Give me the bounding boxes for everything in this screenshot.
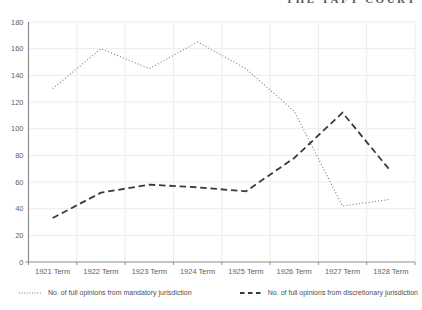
x-tick-label: 1925 Term: [228, 267, 263, 276]
chart-canvas: 0204060801001201401601801921 Term1922 Te…: [0, 0, 422, 284]
y-tick-label: 60: [15, 178, 23, 187]
x-tick-label: 1921 Term: [35, 267, 70, 276]
y-tick-label: 140: [11, 71, 24, 80]
x-tick-label: 1927 Term: [325, 267, 360, 276]
y-tick-label: 20: [15, 231, 23, 240]
legend-item-discretionary: No. of full opinions from discretionary …: [240, 289, 418, 296]
y-tick-label: 120: [11, 98, 24, 107]
dashed-line-sample: [240, 291, 262, 295]
dotted-line-sample: [19, 291, 42, 295]
x-tick-label: 1928 Term: [373, 267, 408, 276]
y-tick-label: 100: [11, 124, 24, 133]
y-tick-label: 0: [19, 258, 23, 267]
y-tick-label: 40: [15, 204, 23, 213]
x-tick-label: 1923 Term: [132, 267, 167, 276]
y-tick-label: 180: [11, 18, 24, 27]
x-tick-label: 1926 Term: [277, 267, 312, 276]
legend-label-mandatory: No. of full opinions from mandatory juri…: [48, 289, 192, 296]
chart-legend: No. of full opinions from mandatory juri…: [19, 289, 418, 296]
legend-item-mandatory: No. of full opinions from mandatory juri…: [19, 289, 192, 296]
legend-label-discretionary: No. of full opinions from discretionary …: [268, 289, 418, 296]
y-tick-label: 80: [15, 151, 23, 160]
book-page: THE TAFT COURT 0204060801001201401601801…: [0, 0, 422, 310]
x-tick-label: 1922 Term: [83, 267, 118, 276]
y-tick-label: 160: [11, 44, 24, 53]
x-tick-label: 1924 Term: [180, 267, 215, 276]
opinions-line-chart: 0204060801001201401601801921 Term1922 Te…: [0, 0, 422, 310]
